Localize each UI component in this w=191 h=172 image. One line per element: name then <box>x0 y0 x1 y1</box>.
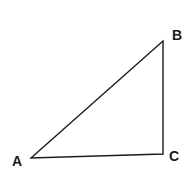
vertex-label-c: C <box>169 148 179 164</box>
vertex-label-b: B <box>172 27 182 43</box>
triangle-diagram: A B C <box>0 0 191 172</box>
vertex-label-a: A <box>12 153 22 169</box>
triangle-abc <box>31 41 163 158</box>
